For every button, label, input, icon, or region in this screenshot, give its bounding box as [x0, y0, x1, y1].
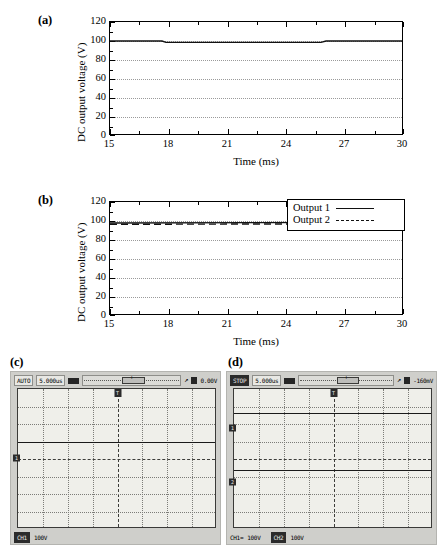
legend-swatch-solid-icon	[336, 208, 374, 209]
legend-label-output-2: Output 2	[293, 214, 330, 226]
panel-b-ytick-100: 100	[90, 215, 106, 225]
panel-a-xtick-15: 15	[104, 139, 115, 149]
panel-b-ytick-20: 20	[96, 291, 107, 301]
panel-a-y-axis-title: DC output voltage (V)	[75, 43, 87, 142]
grid-vline	[408, 389, 409, 527]
scope-c-channel-1-badge[interactable]: CH1	[14, 532, 30, 543]
panel-b-xtick-15: 15	[104, 319, 115, 329]
scope-d-position-bar[interactable]: T	[298, 375, 393, 386]
grid-vline	[142, 389, 143, 527]
grid-hline	[234, 424, 431, 425]
grid-hline	[234, 494, 431, 495]
scope-c-position-bar[interactable]: T	[82, 375, 181, 386]
scope-c-bottom-bar: CH1 100V	[14, 532, 47, 542]
panel-b-ytick-120: 120	[90, 196, 106, 206]
scope-c-memory-depth-icon	[68, 378, 79, 384]
panel-a: (a) DC output voltage (V) 120 100 80 60 …	[0, 0, 447, 175]
position-bar-window[interactable]	[337, 377, 360, 384]
oscilloscope-d: STOP 5.000us T ↗ -160mV	[226, 371, 437, 545]
ch2-ground-marker[interactable]: 2	[229, 479, 236, 486]
grid-vline	[259, 389, 260, 527]
panel-b-x-axis-title: Time (ms)	[109, 335, 403, 347]
trace-ch2	[234, 470, 431, 471]
panel-b-xtick-18: 18	[163, 319, 174, 329]
panel-b-y-axis-title: DC output voltage (V)	[75, 223, 87, 322]
grid-vline	[309, 389, 310, 527]
panel-a-tag: (a)	[38, 13, 52, 28]
grid-vline	[93, 389, 94, 527]
ch1-ground-marker[interactable]: 1	[13, 455, 20, 462]
legend-label-output-1: Output 1	[293, 202, 330, 214]
grid-vline	[383, 389, 384, 527]
panel-a-ytick-20: 20	[96, 111, 107, 121]
grid-hline	[234, 442, 431, 443]
trace-ch1	[18, 442, 215, 443]
legend-entry-output-1: Output 1	[293, 202, 400, 214]
panel-a-xtick-18: 18	[163, 139, 174, 149]
grid-vline	[358, 389, 359, 527]
grid-hline	[18, 512, 215, 513]
grid-vline	[68, 389, 69, 527]
scope-d-bottom-bar: CH1= 100V CH2 100V	[230, 532, 304, 542]
grid-hline	[234, 512, 431, 513]
panel-b-xtick-27: 27	[339, 319, 350, 329]
panel-a-xtick-27: 27	[339, 139, 350, 149]
trigger-source-icon[interactable]	[404, 377, 410, 384]
grid-hline-center	[18, 459, 215, 460]
grid-hline	[18, 477, 215, 478]
trigger-position-marker: T	[345, 375, 348, 380]
panel-a-ytick-120: 120	[90, 16, 106, 26]
trace-ch1	[234, 413, 431, 414]
grid-hline	[18, 407, 215, 408]
scope-c-top-bar: AUTO 5.000us T ↗ 0.00V	[14, 375, 217, 386]
panel-a-xtick-24: 24	[281, 139, 292, 149]
panel-b-ytick-40: 40	[96, 272, 107, 282]
grid-hline-center	[234, 459, 431, 460]
scope-c-timebase-badge[interactable]: 5.000us	[36, 375, 65, 386]
trigger-marker[interactable]: T	[330, 389, 337, 397]
ch1-ground-marker[interactable]: 1	[229, 425, 236, 432]
panel-b-ytick-60: 60	[96, 253, 107, 263]
grid-hline	[234, 407, 431, 408]
scope-c-trigger-icons: ↗	[184, 377, 197, 384]
scope-d-trigger-icons: ↗	[397, 377, 410, 384]
grid-vline	[43, 389, 44, 527]
trigger-marker[interactable]: T	[114, 389, 121, 397]
scope-c-run-state-badge[interactable]: AUTO	[14, 375, 33, 386]
scope-d-timebase-badge[interactable]: 5.000us	[252, 375, 281, 386]
position-bar-window[interactable]	[122, 377, 145, 384]
scope-d-channel-2-badge[interactable]: CH2	[271, 532, 287, 543]
grid-hline	[234, 477, 431, 478]
grid-hline	[18, 494, 215, 495]
scope-c-trigger-level: 0.00V	[200, 376, 217, 385]
panel-a-ytick-100: 100	[90, 35, 106, 45]
panel-b-xtick-24: 24	[281, 319, 292, 329]
grid-hline	[18, 424, 215, 425]
grid-vline	[167, 389, 168, 527]
panel-b-tag: (b)	[38, 193, 53, 208]
scope-d-channel-1-label[interactable]: CH1=	[230, 533, 243, 542]
rising-edge-icon[interactable]: ↗	[397, 377, 401, 384]
oscilloscope-c: AUTO 5.000us T ↗ 0.00V	[10, 371, 221, 545]
scope-d-grid: T	[233, 388, 432, 528]
panel-b-xtick-30: 30	[397, 319, 408, 329]
rising-edge-icon[interactable]: ↗	[184, 377, 188, 384]
panel-b-ytick-80: 80	[96, 234, 107, 244]
trigger-source-icon[interactable]	[191, 377, 197, 384]
scope-d-top-bar: STOP 5.000us T ↗ -160mV	[230, 375, 433, 386]
panel-b: (b) DC output voltage (V) 120 100 80 60 …	[0, 180, 447, 358]
grid-vline	[192, 389, 193, 527]
panel-b-xtick-21: 21	[222, 319, 233, 329]
grid-vline-center	[118, 389, 119, 527]
panel-a-xtick-21: 21	[222, 139, 233, 149]
trigger-position-marker: T	[130, 375, 133, 380]
panel-a-xtick-30: 30	[397, 139, 408, 149]
panel-a-ytick-80: 80	[96, 54, 107, 64]
panel-a-x-axis-title: Time (ms)	[109, 155, 403, 167]
grid-vline-center	[334, 389, 335, 527]
grid-vline	[284, 389, 285, 527]
panel-d-tag: (d)	[228, 355, 243, 370]
scope-d-run-state-badge[interactable]: STOP	[230, 375, 249, 386]
panel-a-ytick-60: 60	[96, 73, 107, 83]
scope-d-channel-2-scale: 100V	[290, 533, 303, 542]
